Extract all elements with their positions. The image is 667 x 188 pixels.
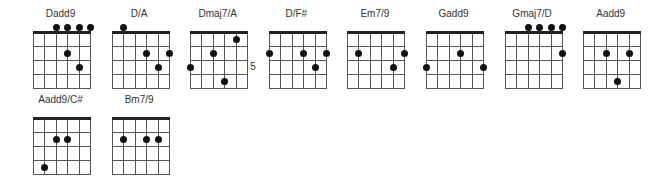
- chord-diagram: D/A: [100, 0, 179, 86]
- fret-line: [112, 146, 170, 147]
- nut: [190, 31, 248, 34]
- nut: [505, 31, 563, 34]
- fret-line: [190, 60, 248, 61]
- fret-line: [269, 46, 327, 47]
- finger-dot: [143, 136, 150, 143]
- fret-line: [190, 74, 248, 75]
- fret-line: [112, 160, 170, 161]
- fret-line: [33, 174, 91, 175]
- open-string-dot: [559, 24, 566, 31]
- fret-line: [505, 46, 563, 47]
- fret-line: [505, 60, 563, 61]
- chord-name: D/F#: [257, 8, 336, 20]
- chord-name: Em7/9: [335, 8, 414, 20]
- chord-diagram: D/F#: [257, 0, 336, 86]
- chord-name: D/A: [100, 8, 179, 20]
- finger-dot: [312, 64, 319, 71]
- chord-name: Bm7/9: [100, 94, 179, 106]
- finger-dot: [187, 64, 194, 71]
- nut: [269, 31, 327, 34]
- fret-line: [347, 60, 405, 61]
- open-string-dot: [525, 24, 532, 31]
- fret-line: [112, 60, 170, 61]
- chord-name: Dmaj7/A: [178, 8, 257, 20]
- finger-dot: [626, 50, 633, 57]
- fret-line: [33, 132, 91, 133]
- open-string-dot: [53, 24, 60, 31]
- nut: [112, 117, 170, 120]
- finger-dot: [401, 50, 408, 57]
- fret-line: [347, 88, 405, 89]
- chord-diagram: Aadd9/C#: [21, 86, 100, 172]
- open-string-dot: [120, 24, 127, 31]
- open-string-dot: [64, 24, 71, 31]
- fret-line: [33, 46, 91, 47]
- finger-dot: [233, 36, 240, 43]
- fret-line: [112, 174, 170, 175]
- nut: [583, 31, 641, 34]
- fret-line: [426, 46, 484, 47]
- fretboard-grid: [426, 32, 483, 88]
- finger-dot: [64, 50, 71, 57]
- open-string-dot: [76, 24, 83, 31]
- chord-name: Aadd9/C#: [21, 94, 100, 106]
- fret-line: [505, 74, 563, 75]
- nut: [33, 117, 91, 120]
- finger-dot: [390, 64, 397, 71]
- fretboard-grid: [112, 32, 169, 88]
- fret-line: [269, 60, 327, 61]
- finger-dot: [266, 50, 273, 57]
- fret-line: [583, 60, 641, 61]
- chord-name: Dadd9: [21, 8, 100, 20]
- chord-diagram: Gmaj7/D: [493, 0, 572, 86]
- finger-dot: [355, 50, 362, 57]
- finger-dot: [457, 50, 464, 57]
- nut: [347, 31, 405, 34]
- finger-dot: [155, 136, 162, 143]
- fret-line: [426, 60, 484, 61]
- fret-number-label: 5: [250, 62, 256, 72]
- finger-dot: [614, 78, 621, 85]
- fret-line: [190, 46, 248, 47]
- fret-line: [347, 46, 405, 47]
- fret-line: [112, 46, 170, 47]
- nut: [33, 31, 91, 34]
- fret-line: [190, 88, 248, 89]
- chord-diagram: Gadd9: [414, 0, 493, 86]
- fretboard-grid: 5: [190, 32, 247, 88]
- fret-line: [505, 88, 563, 89]
- nut: [112, 31, 170, 34]
- fret-line: [583, 46, 641, 47]
- chord-diagram: Em7/9: [335, 0, 414, 86]
- chord-name: Gadd9: [414, 8, 493, 20]
- fretboard-grid: [112, 118, 169, 174]
- finger-dot: [300, 50, 307, 57]
- fret-line: [112, 74, 170, 75]
- fretboard-grid: [33, 118, 90, 174]
- finger-dot: [76, 64, 83, 71]
- fret-line: [269, 88, 327, 89]
- finger-dot: [323, 50, 330, 57]
- fretboard-grid: [33, 32, 90, 88]
- finger-dot: [41, 164, 48, 171]
- finger-dot: [559, 50, 566, 57]
- finger-dot: [143, 50, 150, 57]
- finger-dot: [221, 78, 228, 85]
- open-string-dot: [548, 24, 555, 31]
- chord-diagram: Dmaj7/A5: [178, 0, 257, 86]
- fretboard-grid: [583, 32, 640, 88]
- fret-line: [33, 146, 91, 147]
- finger-dot: [603, 50, 610, 57]
- fret-line: [426, 74, 484, 75]
- chord-diagram: Bm7/9: [100, 86, 179, 172]
- finger-dot: [166, 50, 173, 57]
- chord-diagram: Aadd9: [571, 0, 650, 86]
- fret-line: [33, 74, 91, 75]
- fret-line: [33, 160, 91, 161]
- open-string-dot: [87, 24, 94, 31]
- finger-dot: [53, 136, 60, 143]
- fret-line: [347, 74, 405, 75]
- chord-name: Gmaj7/D: [493, 8, 572, 20]
- finger-dot: [120, 136, 127, 143]
- chord-name: Aadd9: [571, 8, 650, 20]
